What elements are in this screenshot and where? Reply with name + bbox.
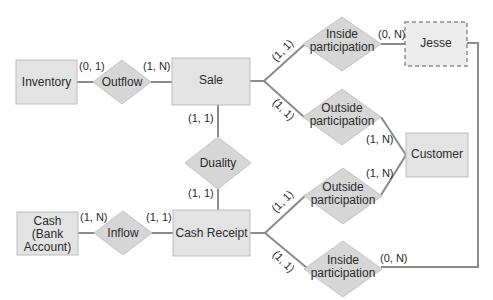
cardinality-cashreceipt-outside: (1, 1): [269, 188, 296, 215]
svg-text:participation: participation: [310, 114, 375, 128]
entity-cash-bank-account: Cash (Bank Account): [17, 212, 78, 255]
entity-sale: Sale: [172, 58, 250, 105]
cardinality-sale-inside: (1, 1): [269, 37, 296, 64]
cardinality-cash-inflow: (1, N): [80, 211, 108, 223]
svg-text:Inventory: Inventory: [22, 75, 71, 89]
svg-text:Inside: Inside: [327, 253, 359, 267]
cardinality-inventory-outflow: (0, 1): [79, 60, 105, 72]
cardinality-outside-customer-top: (1, N): [366, 133, 394, 145]
svg-text:Outside: Outside: [322, 180, 364, 194]
entity-customer: Customer: [406, 133, 468, 177]
svg-text:Outflow: Outflow: [102, 75, 143, 89]
svg-text:Inside: Inside: [326, 27, 358, 41]
svg-text:participation: participation: [311, 193, 376, 207]
svg-text:Jesse: Jesse: [420, 36, 452, 50]
svg-text:participation: participation: [310, 40, 375, 54]
entity-jesse: Jesse: [405, 22, 467, 66]
relationship-inside-participation-top: Inside participation: [303, 17, 381, 71]
svg-text:Outside: Outside: [321, 101, 363, 115]
relationship-inside-participation-bottom: Inside participation: [304, 241, 382, 297]
svg-text:Sale: Sale: [199, 73, 223, 87]
svg-text:(Bank: (Bank: [32, 227, 64, 241]
relationship-duality: Duality: [185, 137, 251, 189]
entity-cash-receipt: Cash Receipt: [173, 210, 250, 256]
cardinality-inside-jesse-bottom: (0, N): [380, 252, 408, 264]
svg-text:Customer: Customer: [411, 147, 463, 161]
cardinality-inside-jesse: (0, N): [378, 28, 406, 40]
cardinality-outside-customer-bottom: (1, N): [366, 167, 394, 179]
svg-text:Duality: Duality: [200, 156, 237, 170]
er-diagram: Inventory Sale Jesse Customer Cash (Bank…: [0, 0, 493, 300]
entity-inventory: Inventory: [16, 60, 77, 104]
svg-text:Account): Account): [24, 240, 71, 254]
cardinality-inflow-cashreceipt: (1, 1): [146, 211, 172, 223]
svg-text:Inflow: Inflow: [107, 226, 139, 240]
cardinality-outflow-sale: (1, N): [143, 60, 171, 72]
cardinality-sale-duality: (1, 1): [188, 112, 214, 124]
cardinality-duality-cashreceipt: (1, 1): [188, 187, 214, 199]
cardinality-sale-outside: (1, 1): [271, 96, 298, 123]
svg-text:participation: participation: [311, 266, 376, 280]
svg-text:Cash: Cash: [33, 214, 61, 228]
svg-text:Cash Receipt: Cash Receipt: [175, 226, 248, 240]
cardinality-cashreceipt-inside: (1, 1): [271, 248, 298, 275]
